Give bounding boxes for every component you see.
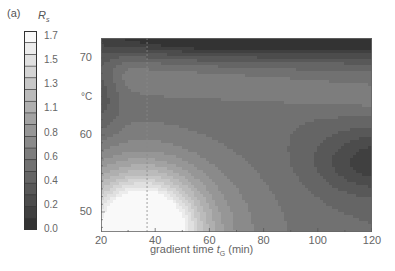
colorbar-tick-label: 0.0 bbox=[44, 223, 58, 234]
contour-plot bbox=[101, 38, 372, 232]
colorbar-swatch bbox=[24, 183, 37, 195]
colorbar-swatch bbox=[24, 160, 37, 172]
y-tick-label: 60 bbox=[72, 128, 92, 140]
colorbar-tick-label: 0.6 bbox=[44, 151, 58, 162]
colorbar-swatch bbox=[24, 171, 37, 183]
colorbar-tick-label: 1.1 bbox=[44, 102, 58, 113]
colorbar-swatch bbox=[24, 54, 37, 66]
x-tick-label: 120 bbox=[357, 234, 387, 246]
colorbar-tick-label: 0.4 bbox=[44, 175, 58, 186]
x-axis-label: gradient time tG (min) bbox=[150, 243, 253, 257]
colorbar-tick-label: 1.3 bbox=[44, 78, 58, 89]
x-tick-label: 20 bbox=[86, 234, 116, 246]
colorbar-tick-label: 0.2 bbox=[44, 199, 58, 210]
panel-label: (a) bbox=[7, 7, 20, 19]
colorbar-tick-label: 0.8 bbox=[44, 127, 58, 138]
colorbar-title: Rs bbox=[38, 9, 49, 23]
colorbar-swatch bbox=[24, 66, 37, 78]
colorbar-tick-label: 1.7 bbox=[44, 30, 58, 41]
colorbar-swatch bbox=[24, 78, 37, 90]
colorbar-swatch bbox=[24, 125, 37, 137]
colorbar bbox=[24, 31, 37, 230]
colorbar-swatch bbox=[24, 90, 37, 102]
y-tick-label: 50 bbox=[72, 205, 92, 217]
colorbar-swatch bbox=[24, 31, 37, 43]
colorbar-swatch bbox=[24, 207, 37, 219]
x-tick-label: 100 bbox=[303, 234, 333, 246]
colorbar-swatch bbox=[24, 113, 37, 125]
colorbar-swatch bbox=[24, 101, 37, 113]
colorbar-swatch bbox=[24, 43, 37, 55]
colorbar-swatch bbox=[24, 195, 37, 207]
y-tick-label: 70 bbox=[72, 51, 92, 63]
colorbar-tick-label: 1.5 bbox=[44, 54, 58, 65]
colorbar-swatch bbox=[24, 148, 37, 160]
y-axis-label: °C bbox=[81, 91, 92, 102]
colorbar-swatch bbox=[24, 136, 37, 148]
colorbar-swatch bbox=[24, 218, 37, 230]
